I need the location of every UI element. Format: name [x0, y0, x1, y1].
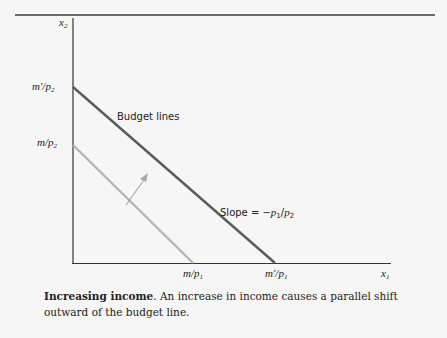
shift-arrow: [126, 177, 146, 205]
x-tick-m-over-p1: m/p1: [183, 267, 203, 281]
x-axis-label: x1: [381, 267, 389, 281]
arrow-head-icon: [140, 173, 148, 182]
slope-label: Slope = −p1/p2: [220, 206, 294, 220]
x-tick-m-prime-over-p1: m′/p1: [265, 267, 287, 281]
y-axis-label: x2: [59, 16, 67, 30]
y-tick-m-over-p2: m/p2: [37, 136, 57, 150]
budget-line-original: [73, 145, 193, 263]
y-tick-m-prime-over-p2: m′/p2: [32, 80, 54, 94]
page: x2 x1 m′/p2 m/p2 m/p1 m′/p1 Budget lines…: [0, 0, 447, 338]
budget-lines-label: Budget lines: [117, 111, 179, 122]
figure-caption: Increasing income. An increase in income…: [44, 288, 434, 320]
caption-title: Increasing income: [44, 290, 153, 302]
